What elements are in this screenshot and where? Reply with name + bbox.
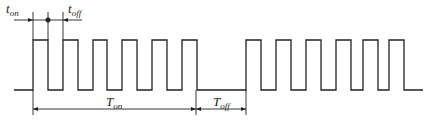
pulse-timing-diagram: ton toff Ton Toff — [0, 0, 431, 123]
label-t-off: toff — [68, 2, 81, 18]
label-t-on: ton — [6, 2, 19, 18]
dimension-lines — [14, 12, 246, 115]
label-T-on: Ton — [106, 95, 122, 111]
label-T-off: Toff — [213, 95, 230, 111]
pulse-waveform — [14, 40, 423, 90]
